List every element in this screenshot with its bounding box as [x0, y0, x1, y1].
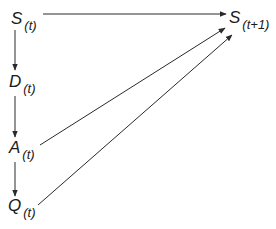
node-s-t1: S(t+1): [229, 9, 269, 26]
edge-at-to-st1: [40, 28, 225, 145]
node-a-t-subscript: (t): [22, 147, 34, 162]
node-d-t-subscript: (t): [23, 81, 35, 96]
node-q-t-label: Q: [8, 196, 21, 215]
node-q-t: Q(t): [8, 197, 36, 214]
node-s-t: S(t): [11, 10, 37, 27]
node-a-t: A(t): [9, 139, 35, 156]
diagram-edges: [0, 0, 276, 229]
node-d-t: D(t): [9, 73, 36, 90]
node-d-t-label: D: [9, 72, 21, 91]
node-s-t-label: S: [11, 9, 22, 28]
node-q-t-subscript: (t): [23, 205, 35, 220]
node-s-t1-label: S: [229, 8, 240, 27]
node-a-t-label: A: [9, 138, 20, 157]
node-s-t1-subscript: (t+1): [242, 17, 269, 32]
edge-qt-to-st1: [38, 35, 232, 205]
node-s-t-subscript: (t): [24, 18, 36, 33]
